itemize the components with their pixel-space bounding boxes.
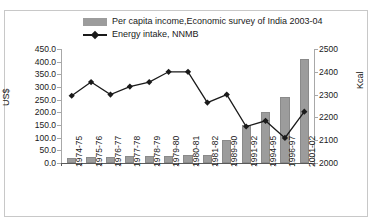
chart-container: Per capita income,Economic survey of Ind…	[4, 10, 368, 217]
marker-1978-79	[146, 79, 152, 85]
marker-1989-90	[224, 92, 230, 98]
legend-item-per-capita-income: Per capita income,Economic survey of Ind…	[5, 15, 369, 28]
marker-1981-82	[204, 99, 210, 105]
x-axis-tickmark	[100, 163, 101, 166]
x-axis-tickmark	[216, 163, 217, 166]
x-axis-tickmark	[119, 163, 120, 166]
x-axis-tickmark	[274, 163, 275, 166]
legend-line-marker-icon	[83, 31, 107, 39]
x-axis-tick-1975-76: 1975-76	[94, 136, 104, 167]
x-axis-tickmark	[235, 163, 236, 166]
y-axis-left-tick: 300.0	[35, 82, 56, 92]
y-axis-right-tick: 2400	[319, 67, 338, 77]
y-axis-left-tick: 350.0	[35, 69, 56, 79]
y-axis-right-tick: 2200	[319, 112, 338, 122]
x-axis-tick-2001-02: 2001-02	[307, 136, 317, 167]
energy-intake-markers	[69, 69, 308, 141]
y-axis-left-tick: 50.0	[39, 145, 56, 155]
x-axis-tick-1977-78: 1977-78	[132, 136, 142, 167]
x-axis-tickmark	[313, 163, 314, 166]
y-axis-left-tick: 0.0	[44, 158, 56, 168]
x-axis-tickmark	[61, 163, 62, 166]
x-axis-tickmark	[139, 163, 140, 166]
legend-label-per-capita-income: Per capita income,Economic survey of Ind…	[112, 16, 323, 27]
x-axis-tickmark	[255, 163, 256, 166]
y-axis-right-tick: 2000	[319, 158, 338, 168]
x-axis-tick-1980-81: 1980-81	[191, 136, 201, 167]
x-axis-tick-1976-77: 1976-77	[113, 136, 123, 167]
legend-bar-swatch-icon	[83, 18, 107, 26]
y-axis-left-tick: 250.0	[35, 95, 56, 105]
y-axis-left-tick: 150.0	[35, 120, 56, 130]
marker-1991-92	[243, 123, 249, 129]
x-axis-tick-1989-90: 1989-90	[229, 136, 239, 167]
x-axis-tick-1981-82: 1981-82	[210, 136, 220, 167]
x-axis-tick-1991-92: 1991-92	[249, 136, 259, 167]
marker-1977-78	[127, 84, 133, 90]
legend-label-energy-intake: Energy intake, NNMB	[112, 29, 199, 40]
y-axis-left-tick: 100.0	[35, 133, 56, 143]
x-axis-tickmark	[177, 163, 178, 166]
x-axis-tick-1996-97: 1996-97	[287, 136, 297, 167]
x-axis-tickmark	[197, 163, 198, 166]
x-axis-tickmark	[294, 163, 295, 166]
y-axis-right-tick: 2300	[319, 90, 338, 100]
y-axis-left-tick: 400.0	[35, 57, 56, 67]
y-axis-left-tick: 200.0	[35, 107, 56, 117]
x-axis-tick-1978-79: 1978-79	[152, 136, 162, 167]
y-axis-left-title: US$	[1, 88, 11, 106]
chart-legend: Per capita income,Economic survey of Ind…	[5, 15, 369, 41]
x-axis-tickmark	[80, 163, 81, 166]
energy-intake-line	[72, 72, 305, 138]
legend-item-energy-intake: Energy intake, NNMB	[5, 28, 369, 41]
marker-1979-80	[166, 69, 172, 75]
x-axis-tick-1974-75: 1974-75	[74, 136, 84, 167]
y-axis-right-tick: 2100	[319, 135, 338, 145]
y-axis-right-title: Kcal	[355, 71, 365, 89]
y-axis-right-tick: 2500	[319, 44, 338, 54]
x-axis-tickmark	[158, 163, 159, 166]
marker-1980-81	[185, 69, 191, 75]
y-axis-left-tick: 450.0	[35, 44, 56, 54]
x-axis-tick-1994-95: 1994-95	[268, 136, 278, 167]
x-axis-tick-1979-80: 1979-80	[171, 136, 181, 167]
